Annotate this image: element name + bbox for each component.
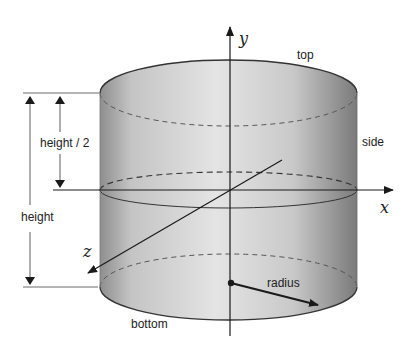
z-axis-label: z	[83, 244, 91, 260]
x-axis-label: x	[380, 200, 389, 216]
top-label: top	[297, 49, 314, 61]
height-label: height	[21, 211, 54, 223]
half-height-label: height / 2	[40, 137, 89, 149]
y-axis-label: y	[239, 31, 248, 47]
radius-label: radius	[267, 277, 300, 289]
cylinder-diagram	[0, 0, 415, 346]
bottom-label: bottom	[131, 318, 168, 330]
side-label: side	[362, 136, 384, 148]
